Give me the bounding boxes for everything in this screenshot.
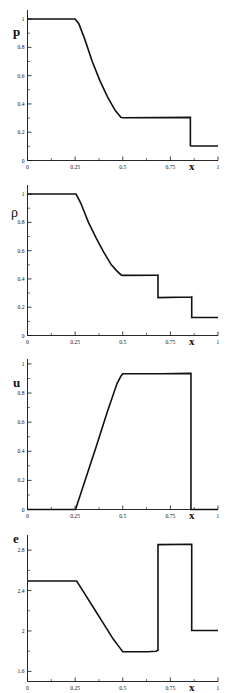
svg-text:0.4: 0.4	[18, 276, 25, 282]
velocity-curve	[28, 373, 219, 509]
svg-text:0: 0	[26, 164, 29, 170]
svg-text:1: 1	[22, 191, 25, 197]
svg-text:0.5: 0.5	[119, 685, 126, 691]
density-plot: 00.20.40.60.81 00.250.50.751 ρ x	[0, 175, 235, 347]
svg-text:0.2: 0.2	[18, 129, 25, 135]
svg-text:0.25: 0.25	[70, 513, 80, 519]
svg-text:1.6: 1.6	[18, 668, 25, 674]
svg-text:1: 1	[217, 685, 220, 691]
density-axis-label: ρ	[11, 205, 18, 220]
energy-axes	[28, 535, 219, 682]
energy-curve	[28, 544, 219, 651]
panel-density: 00.20.40.60.81 00.250.50.751 ρ x	[0, 175, 235, 347]
velocity-axes	[28, 359, 219, 510]
svg-text:2.8: 2.8	[18, 547, 25, 553]
svg-text:0.5: 0.5	[119, 164, 126, 170]
svg-text:0.75: 0.75	[165, 164, 175, 170]
svg-text:0.25: 0.25	[70, 685, 80, 691]
svg-text:1: 1	[22, 16, 25, 22]
svg-text:0.5: 0.5	[119, 339, 126, 345]
svg-text:0: 0	[26, 685, 29, 691]
svg-text:0.6: 0.6	[18, 73, 25, 79]
svg-text:0.6: 0.6	[18, 248, 25, 254]
svg-text:0.4: 0.4	[18, 448, 25, 454]
svg-text:0: 0	[22, 333, 25, 339]
velocity-plot: 00.20.40.60.81 00.250.50.751 u x	[0, 349, 235, 521]
pressure-axes	[28, 10, 219, 161]
velocity-x-axis-label: x	[189, 509, 195, 521]
svg-text:0: 0	[22, 158, 25, 164]
svg-text:2.4: 2.4	[18, 588, 25, 594]
panel-pressure: 00.20.40.60.81 00.250.50.751 p x	[0, 0, 235, 172]
velocity-axis-label: u	[13, 375, 20, 390]
svg-text:0.2: 0.2	[18, 304, 25, 310]
energy-y-ticks: 1.622.42.8	[18, 547, 32, 674]
pressure-axis-label: p	[13, 24, 20, 39]
energy-axis-label: e	[13, 531, 19, 546]
svg-text:1: 1	[217, 513, 220, 519]
panel-velocity: 00.20.40.60.81 00.250.50.751 u x	[0, 349, 235, 521]
svg-text:0.75: 0.75	[165, 685, 175, 691]
density-x-axis-label: x	[189, 335, 195, 347]
panel-energy: 1.622.42.8 00.250.50.751 e x	[0, 521, 235, 693]
svg-text:0.75: 0.75	[165, 513, 175, 519]
svg-text:0.2: 0.2	[18, 477, 25, 483]
pressure-plot: 00.20.40.60.81 00.250.50.751 p x	[0, 0, 235, 172]
svg-text:0.8: 0.8	[18, 219, 25, 225]
svg-text:0: 0	[22, 507, 25, 513]
svg-text:1: 1	[22, 361, 25, 367]
energy-plot: 1.622.42.8 00.250.50.751 e x	[0, 521, 235, 693]
svg-text:0.25: 0.25	[70, 339, 80, 345]
density-y-ticks: 00.20.40.60.81	[18, 191, 32, 338]
svg-text:0.8: 0.8	[18, 390, 25, 396]
pressure-x-axis-label: x	[189, 160, 195, 172]
svg-text:0.8: 0.8	[18, 44, 25, 50]
svg-text:1: 1	[217, 339, 220, 345]
energy-x-axis-label: x	[189, 681, 195, 693]
shock-tube-figure: 00.20.40.60.81 00.250.50.751 p x 00.20.4…	[0, 0, 235, 693]
svg-text:0.4: 0.4	[18, 101, 25, 107]
svg-text:0.25: 0.25	[70, 164, 80, 170]
density-curve	[28, 194, 219, 317]
svg-text:2: 2	[22, 628, 25, 634]
pressure-curve	[28, 19, 219, 146]
svg-text:0: 0	[26, 513, 29, 519]
density-axes	[28, 185, 219, 336]
svg-text:0: 0	[26, 339, 29, 345]
svg-text:0.75: 0.75	[165, 339, 175, 345]
svg-text:1: 1	[217, 164, 220, 170]
svg-text:0.5: 0.5	[119, 513, 126, 519]
svg-text:0.6: 0.6	[18, 419, 25, 425]
